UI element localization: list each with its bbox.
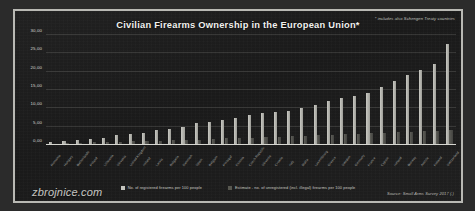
x-axis-tick-label: Finland [433,156,443,167]
chart-title: Civilian Firearms Ownership in the Europ… [15,20,461,30]
bar-registered [393,81,396,145]
chart-source: Source: Small Arms Survey 2017 (.) [387,191,454,196]
bar-unregistered [423,131,426,145]
bar-group [165,35,178,145]
bar-unregistered [436,131,439,145]
bar-group [244,35,257,145]
bar-registered [366,93,369,145]
x-axis-labels: RomaniaHungaryNetherlandsPolandLithuania… [46,145,456,167]
bar-group [443,35,456,145]
x-axis-tick-label: Romania [49,154,60,167]
y-axis-tick-label: 5,00 [33,119,42,124]
x-axis-tick-label: Belgium [208,155,219,167]
bar-registered [234,118,237,145]
chart-frame: Civilian Firearms Ownership in the Europ… [13,9,463,203]
x-axis-tick-label: Portugal [221,155,232,167]
bar-group [324,35,337,145]
legend-item-registered: No. of registered firearms per 100 peopl… [121,185,202,190]
bar-group [284,35,297,145]
x-axis-tick-label: Spain [195,158,204,167]
bar-registered [340,98,343,145]
x-axis-tick-label: Slovenia [261,154,272,167]
bar-group [178,35,191,145]
x-axis-tick-label: Croatia [274,156,284,167]
x-axis-tick-label: Poland [89,156,99,167]
bar-group [297,35,310,145]
x-axis-tick-label: Austria [420,156,430,167]
y-axis-tick-label: 15,00 [31,83,43,88]
bar-registered [446,44,449,145]
watermark: zbrojnice.com [32,186,102,198]
y-axis-tick-label: 0,00 [33,138,42,143]
bar-registered [261,113,264,145]
legend-swatch-registered [121,186,125,190]
bar-group [72,35,85,145]
bar-registered [221,120,224,145]
x-axis-tick-label: Denmark [182,154,194,167]
x-axis-tick-label: Estonia [235,156,245,167]
x-axis-tick-label: Norway [407,155,417,167]
x-axis-tick-label: Malta [301,158,309,167]
legend-label-unregistered: Estimate - no. of unregistered (incl. il… [235,185,355,190]
x-axis-tick-label: Bulgaria [168,155,179,167]
y-axis-tick-label: 10,00 [31,101,43,106]
bar-group [59,35,72,145]
bar-group [390,35,403,145]
x-axis-tick-label: Germany [354,154,366,167]
chart-footnote: * includes also Schengen Treaty countrie… [375,16,455,21]
bar-registered [248,115,251,145]
legend-swatch-unregistered [228,186,232,190]
x-axis-tick-label: Greece [327,156,337,167]
bar-registered [208,122,211,145]
bar-group [403,35,416,145]
bar-group [218,35,231,145]
bar-group [139,35,152,145]
bar-registered [181,127,184,145]
bar-registered [406,75,409,145]
y-axis-tick-label: 25,00 [31,46,43,51]
x-axis-tick-label: Iceland [393,156,403,167]
bar-group [416,35,429,145]
bar-registered [300,108,303,145]
bar-registered [195,123,198,145]
plot-area: 0,005,0010,0015,0020,0025,0030,00 [46,35,456,145]
bar-unregistered [449,130,452,145]
bar-registered [155,130,158,145]
x-axis-tick-label: Slovakia [116,154,127,167]
bar-registered [353,96,356,146]
bar-registered [314,105,317,145]
bar-group [271,35,284,145]
bar-registered [274,112,277,145]
bar-group [112,35,125,145]
bar-group [310,35,323,145]
bar-group [46,35,59,145]
x-axis-tick-label: Sweden [340,155,351,167]
chart-screenshot: Civilian Firearms Ownership in the Europ… [0,0,475,211]
bar-group [363,35,376,145]
y-axis-tick-label: 30,00 [31,28,43,33]
bar-group [125,35,138,145]
bar-registered [287,111,290,145]
y-axis-tick-label: 20,00 [31,64,43,69]
bar-group [152,35,165,145]
bar-group [231,35,244,145]
bar-group [99,35,112,145]
bar-group [258,35,271,145]
legend-item-unregistered: Estimate - no. of unregistered (incl. il… [228,185,355,190]
bar-group [191,35,204,145]
bar-group [350,35,363,145]
x-axis-tick-label: Hungary [63,154,74,167]
bar-registered [433,64,436,145]
x-axis-tick-label: Ireland [142,156,152,167]
x-axis-tick-label: France [367,156,377,167]
legend-label-registered: No. of registered firearms per 100 peopl… [128,185,202,190]
x-axis-tick-label: Italy [288,160,295,167]
bar-registered [380,87,383,145]
bar-registered [168,129,171,145]
bar-registered [419,70,422,145]
bar-group [429,35,442,145]
bar-group [86,35,99,145]
bar-group [337,35,350,145]
x-axis-tick-label: Cyprus [380,156,390,167]
x-axis-tick-label: Latvia [155,157,164,167]
